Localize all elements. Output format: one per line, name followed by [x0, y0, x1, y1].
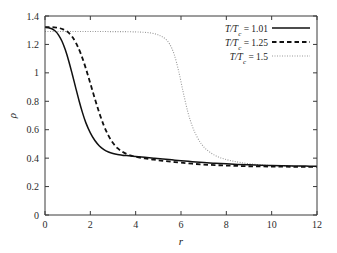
y-tick-label: 1 — [34, 67, 39, 78]
x-tick-label: 10 — [267, 219, 277, 230]
y-tick-label: 0.2 — [27, 181, 40, 192]
y-tick-label: 1.2 — [27, 39, 40, 50]
line-chart: 02468101200.20.40.60.811.21.4 T/Tc = 1.0… — [0, 0, 337, 253]
x-axis-title: r — [179, 235, 184, 247]
y-axis-title: ρ — [6, 113, 18, 119]
x-tick-label: 2 — [88, 219, 93, 230]
y-tick-label: 0.4 — [27, 153, 40, 164]
x-tick-label: 0 — [43, 219, 48, 230]
y-tick-label: 0 — [34, 210, 39, 221]
y-tick-label: 0.8 — [27, 96, 40, 107]
y-tick-label: 0.6 — [27, 124, 40, 135]
x-tick-label: 12 — [312, 219, 322, 230]
x-tick-label: 6 — [179, 219, 184, 230]
x-tick-label: 8 — [224, 219, 229, 230]
y-tick-label: 1.4 — [27, 11, 40, 22]
figure-container: 02468101200.20.40.60.811.21.4 T/Tc = 1.0… — [0, 0, 337, 253]
x-tick-label: 4 — [133, 219, 138, 230]
